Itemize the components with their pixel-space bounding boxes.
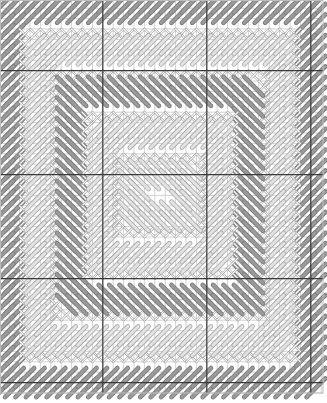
stitch-chart	[0, 0, 327, 403]
stitch-chart-canvas	[0, 0, 327, 403]
stitches	[0, 0, 325, 397]
